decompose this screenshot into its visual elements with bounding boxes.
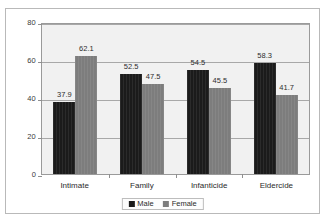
bar-male-intimate[interactable]: 37.9 [53, 102, 75, 174]
y-axis-tick-label: 60 [14, 57, 36, 65]
bar-group: 37.962.1 [42, 24, 109, 174]
bar-female-eldercide[interactable]: 41.7 [276, 95, 298, 174]
bar-group: 52.547.5 [109, 24, 176, 174]
y-axis-tick-label: 40 [14, 95, 36, 103]
legend-label: Male [137, 200, 153, 208]
chart-plot-wrapper: 020406080 37.962.152.547.554.545.558.341… [6, 9, 319, 213]
legend-item-female[interactable]: Female [163, 200, 197, 208]
y-axis: 020406080 [14, 23, 36, 175]
bar-value-label: 41.7 [279, 84, 294, 92]
plot-area: 37.962.152.547.554.545.558.341.7 [41, 23, 310, 175]
bar-group: 54.545.5 [176, 24, 243, 174]
bar-male-infanticide[interactable]: 54.5 [187, 70, 209, 174]
bar-value-label: 37.9 [57, 91, 72, 99]
bar-value-label: 45.5 [212, 77, 227, 85]
chart-frame: 020406080 37.962.152.547.554.545.558.341… [5, 8, 320, 214]
bar-groups: 37.962.152.547.554.545.558.341.7 [42, 24, 309, 174]
legend-swatch-male-icon [128, 201, 134, 207]
y-axis-tick-label: 20 [14, 133, 36, 141]
bar-female-infanticide[interactable]: 45.5 [209, 88, 231, 174]
bar-male-family[interactable]: 52.5 [120, 74, 142, 174]
legend-swatch-female-icon [163, 201, 169, 207]
x-axis-label-eldercide: Eldercide [243, 179, 310, 193]
bar-group: 58.341.7 [242, 24, 309, 174]
bar-value-label: 47.5 [146, 73, 161, 81]
bar-value-label: 58.3 [257, 52, 272, 60]
legend-item-male[interactable]: Male [128, 200, 153, 208]
chart-legend: MaleFemale [121, 198, 203, 210]
bar-value-label: 54.5 [190, 59, 205, 67]
y-axis-tick-mark [38, 176, 42, 177]
x-axis-label-infanticide: Infanticide [176, 179, 243, 193]
y-axis-tick-label: 80 [14, 19, 36, 27]
bar-female-intimate[interactable]: 62.1 [75, 56, 97, 174]
bar-value-label: 62.1 [79, 45, 94, 53]
bar-female-family[interactable]: 47.5 [142, 84, 164, 174]
y-axis-tick-label: 0 [14, 171, 36, 179]
x-axis-label-intimate: Intimate [41, 179, 108, 193]
x-axis-label-family: Family [108, 179, 175, 193]
bar-male-eldercide[interactable]: 58.3 [254, 63, 276, 174]
legend-label: Female [172, 200, 197, 208]
x-axis-category-labels: IntimateFamilyInfanticideEldercide [41, 179, 310, 193]
bar-value-label: 52.5 [124, 63, 139, 71]
